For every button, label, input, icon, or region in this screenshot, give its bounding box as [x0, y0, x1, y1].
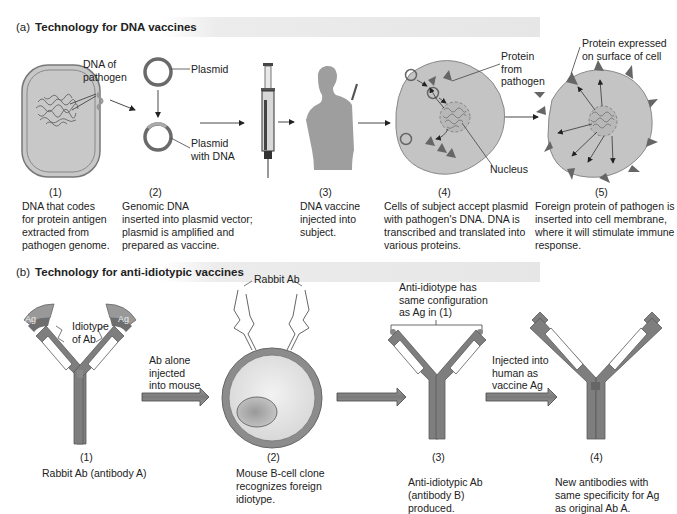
syringe-icon [261, 63, 275, 178]
step-b1-number: (1) [80, 451, 93, 463]
label-line: pathogen [83, 71, 127, 84]
caption-line: response. [535, 239, 675, 252]
caption-line: with pathogen's DNA. DNA is [384, 213, 528, 226]
caption-line: DNA that codes [22, 200, 110, 213]
caption-line: DNA vaccine [300, 200, 360, 213]
step-a5-caption: Foreign protein of pathogen is inserted … [535, 200, 675, 252]
label-protein-from-pathogen: Protein from pathogen [501, 50, 545, 88]
caption-line: extracted from [22, 226, 110, 239]
ag-label-left: Ag [25, 314, 36, 324]
label-injected-human: Injected into human as vaccine Ag [492, 354, 549, 392]
step-b4-number: (4) [590, 451, 603, 463]
label-anti-idiotype: Anti-idiotype has same configuration as … [399, 281, 488, 319]
b-cell-icon [222, 281, 322, 448]
label-line: Plasmid [191, 137, 235, 150]
step-a4-number: (4) [438, 186, 451, 198]
label-line: as Ag in (1) [399, 306, 488, 319]
fat-arrow-to-antibody-b [337, 388, 406, 406]
caption-line: prepared as vaccine. [122, 239, 253, 252]
label-line: with DNA [191, 150, 235, 163]
caption-line: various proteins. [384, 239, 528, 252]
step-b1-caption: Rabbit Ab (antibody A) [42, 467, 146, 480]
caption-line: pathogen genome. [22, 239, 110, 252]
expressing-cell-icon [534, 47, 658, 183]
antibody-b-icon [388, 320, 486, 439]
step-a4-caption: Cells of subject accept plasmid with pat… [384, 200, 528, 252]
step-a2-number: (2) [149, 186, 162, 198]
step-a1-caption: DNA that codes for protein antigen extra… [22, 200, 110, 252]
label-line: pathogen [501, 75, 545, 88]
label-idiotype: Idiotype of Ab [72, 320, 109, 345]
arrow-to-plasmid [110, 100, 135, 110]
step-a2-caption: Genomic DNA inserted into plasmid vector… [122, 200, 253, 252]
label-line: injected [149, 367, 200, 380]
step-a1-number: (1) [49, 186, 62, 198]
caption-line: inserted into plasmid vector; [122, 213, 253, 226]
step-a3-number: (3) [319, 186, 332, 198]
label-plasmid: Plasmid [191, 63, 228, 76]
label-line: Anti-idiotype has [399, 281, 488, 294]
label-line: of Ab [72, 333, 109, 346]
label-line: Protein expressed [582, 37, 667, 50]
caption-line: Anti-idiotypic Ab [408, 476, 483, 489]
caption-line: subject. [300, 226, 360, 239]
label-rabbit-ab: Rabbit Ab [254, 273, 300, 286]
caption-line: same specificity for Ag [555, 489, 659, 502]
step-a5-number: (5) [595, 186, 608, 198]
label-nucleus: Nucleus [490, 163, 528, 176]
step-b2-number: (2) [267, 451, 280, 463]
caption-line: New antibodies with [555, 476, 659, 489]
caption-line: as original Ab A. [555, 502, 659, 514]
step-b2-caption: Mouse B-cell clone recognizes foreign id… [236, 467, 325, 506]
label-dna-of-pathogen: DNA of pathogen [83, 58, 127, 83]
plasmid-with-dna-icon [145, 124, 190, 150]
step-b3-caption: Anti-idiotypic Ab (antibody B) produced. [408, 476, 483, 514]
label-line: Protein [501, 50, 545, 63]
caption-line: for protein antigen [22, 213, 110, 226]
caption-line: Genomic DNA [122, 200, 253, 213]
caption-line: idiotype. [236, 493, 325, 506]
caption-line: Mouse B-cell clone [236, 467, 325, 480]
label-line: Idiotype [72, 320, 109, 333]
label-line: same configuration [399, 294, 488, 307]
caption-line: inserted into cell membrane, [535, 213, 675, 226]
label-line: vaccine Ag [492, 379, 549, 392]
step-b3-number: (3) [432, 451, 445, 463]
label-line: into mouse [149, 379, 200, 392]
label-line: on surface of cell [582, 50, 667, 63]
step-b4-caption: New antibodies with same specificity for… [555, 476, 659, 514]
caption-line: Foreign protein of pathogen is [535, 200, 675, 213]
caption-line: Cells of subject accept plasmid [384, 200, 528, 213]
caption-line: injected into [300, 213, 360, 226]
caption-line: plasmid is amplified and [122, 226, 253, 239]
label-line: Injected into [492, 354, 549, 367]
human-subject-icon [306, 66, 357, 170]
caption-line: produced. [408, 502, 483, 514]
antibody-new-icon [530, 312, 662, 439]
label-plasmid-with-dna: Plasmid with DNA [191, 137, 235, 162]
caption-line: Rabbit Ab (antibody A) [42, 467, 146, 480]
caption-line: transcribed and translated into [384, 226, 528, 239]
caption-line: (antibody B) [408, 489, 483, 502]
ag-label-right: Ag [118, 314, 129, 324]
step-a3-caption: DNA vaccine injected into subject. [300, 200, 360, 239]
caption-line: recognizes foreign [236, 480, 325, 493]
label-ab-alone: Ab alone injected into mouse [149, 354, 200, 392]
label-line: from [501, 63, 545, 76]
label-protein-expressed: Protein expressed on surface of cell [582, 37, 667, 62]
label-line: DNA of [83, 58, 127, 71]
label-line: Ab alone [149, 354, 200, 367]
subject-cell-icon [396, 61, 505, 175]
caption-line: where it will stimulate immune [535, 226, 675, 239]
plasmid-icon [145, 59, 190, 85]
label-line: human as [492, 367, 549, 380]
